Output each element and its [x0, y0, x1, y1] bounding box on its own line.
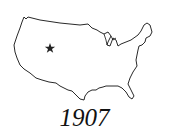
us-map-outline — [0, 0, 169, 105]
star-icon — [45, 43, 55, 53]
great-lakes — [104, 34, 116, 45]
us-border — [14, 17, 152, 100]
year-label: 1907 — [0, 104, 169, 132]
